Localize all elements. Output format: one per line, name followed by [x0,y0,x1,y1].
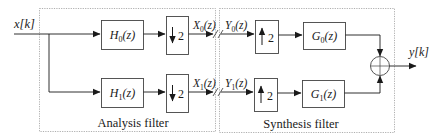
svg-text:Y1(z): Y1(z) [225,77,247,92]
filter-h1: H1(z) [102,79,144,108]
filter-name: G [312,29,321,43]
x0-arg: (z) [204,19,216,32]
svg-text:H1(z): H1(z) [109,86,135,102]
filter-name: G [311,87,320,101]
up-factor: 2 [268,31,274,45]
filter-g1: G1(z) [303,81,345,108]
adder [371,57,390,76]
branch-line [49,34,100,92]
svg-text:X1(z): X1(z) [192,77,216,92]
g0-to-adder-line [346,35,381,56]
filter-bank-diagram: x[k] H0(z) H1(z) 2 2 X0(z) X1(z) [0,0,439,140]
svg-text:G0(z): G0(z) [312,29,337,45]
up-factor: 2 [267,89,273,103]
filter-arg: (z) [324,87,337,101]
filter-h0: H0(z) [102,21,144,50]
g1-to-adder-line [345,76,381,93]
svg-text:X0(z): X0(z) [192,19,216,34]
down-factor: 2 [178,87,184,101]
upsampler-0: 2 [256,21,279,54]
downsampler-1: 2 [167,75,189,113]
y1-arg: (z) [235,77,247,90]
downsampler-0: 2 [167,17,189,55]
synthesis-title: Synthesis filter [263,117,339,131]
filter-arg: (z) [325,29,338,43]
filter-arg: (z) [123,28,136,42]
filter-arg: (z) [123,86,136,100]
down-factor: 2 [178,29,184,43]
svg-text:H0(z): H0(z) [109,28,135,44]
x1-arg: (z) [204,77,216,90]
y0-arg: (z) [235,19,247,32]
upsampler-1: 2 [255,79,278,112]
svg-text:G1(z): G1(z) [311,87,336,103]
input-label: x[k] [13,17,35,31]
output-label: y[k] [408,45,429,59]
analysis-title: Analysis filter [97,116,169,130]
svg-text:Y0(z): Y0(z) [225,19,247,34]
filter-g0: G0(z) [304,23,346,50]
